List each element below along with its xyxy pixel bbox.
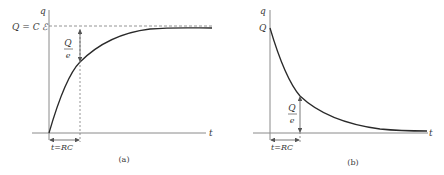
initial-charge-label: Q: [259, 23, 267, 33]
time-constant-label: t=RC: [51, 143, 73, 152]
caption-b: (b): [347, 158, 358, 167]
x-axis-label: t: [429, 128, 433, 138]
panel-a-charging: q t Q = C ℰ Q e t=RC (a): [12, 6, 213, 164]
panel-b-discharging: q t Q Q e t=RC (b): [253, 6, 433, 167]
caption-a: (a): [118, 155, 129, 164]
rc-circuit-diagram: q t Q = C ℰ Q e t=RC (a) q t Q Q e t=RC …: [0, 0, 444, 175]
fraction-numerator: Q: [288, 103, 296, 113]
charging-curve: [49, 28, 212, 133]
fraction-denominator: e: [66, 51, 71, 60]
fraction-numerator: Q: [64, 38, 72, 48]
x-axis-label: t: [209, 128, 213, 138]
y-axis-label: q: [260, 6, 266, 16]
asymptote-label: Q = C ℰ: [12, 22, 49, 32]
time-constant-label: t=RC: [271, 143, 293, 152]
y-axis-label: q: [40, 6, 46, 16]
fraction-denominator: e: [290, 116, 295, 125]
